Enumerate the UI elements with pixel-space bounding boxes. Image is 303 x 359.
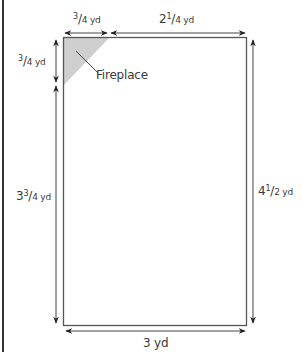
label-left-bottom-dimension: 33/4 yd — [16, 189, 51, 203]
label-bottom-dimension: 3 yd — [143, 336, 168, 350]
label-left-top-dimension: 3/4 yd — [18, 54, 46, 68]
label-top-left-dimension: 3/4 yd — [73, 12, 101, 26]
room-outline — [64, 38, 247, 326]
label-fireplace: Fireplace — [96, 68, 148, 82]
label-right-dimension: 41/2 yd — [258, 184, 293, 198]
label-top-right-dimension: 21/4 yd — [159, 12, 194, 26]
